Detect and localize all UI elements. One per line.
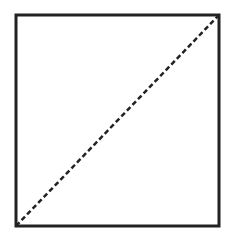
dashed-diagonal-line xyxy=(16,15,219,226)
diagram-canvas xyxy=(0,0,236,240)
